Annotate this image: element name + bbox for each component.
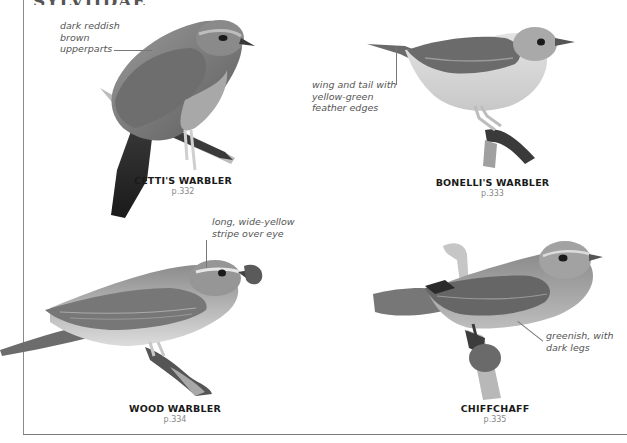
family-title: SYLVIIDAE bbox=[33, 0, 146, 5]
field-guide-page: SYLVIIDAE bbox=[0, 0, 627, 443]
bonellis-leader-line bbox=[396, 47, 397, 85]
wood-title: WOOD WARBLER bbox=[120, 403, 230, 414]
wood-leader-line bbox=[206, 240, 207, 268]
wood-annotation: long, wide-yellow stripe over eye bbox=[212, 216, 295, 239]
chiffchaff-annotation: greenish, with dark legs bbox=[546, 330, 613, 353]
page-header: SYLVIIDAE bbox=[33, 0, 146, 5]
bonellis-title: BONELLI'S WARBLER bbox=[430, 177, 555, 188]
cettis-page-ref: p.332 bbox=[128, 187, 238, 196]
wood-page-ref: p.334 bbox=[120, 415, 230, 424]
chiffchaff-page-ref: p.335 bbox=[445, 415, 545, 424]
wood-warbler-illustration bbox=[0, 252, 270, 397]
cettis-annotation: dark reddish brown upperparts bbox=[60, 20, 120, 55]
chiffchaff-title: CHIFFCHAFF bbox=[445, 403, 545, 414]
bonellis-warbler-illustration bbox=[365, 18, 580, 168]
chiffchaff-illustration bbox=[365, 230, 605, 400]
cettis-title: CETTI'S WARBLER bbox=[128, 175, 238, 186]
cettis-leader-line bbox=[114, 50, 152, 51]
frame-bottom-rule bbox=[23, 434, 627, 435]
bonellis-annotation: wing and tail with yellow-green feather … bbox=[312, 79, 396, 114]
bonellis-page-ref: p.333 bbox=[430, 189, 555, 198]
